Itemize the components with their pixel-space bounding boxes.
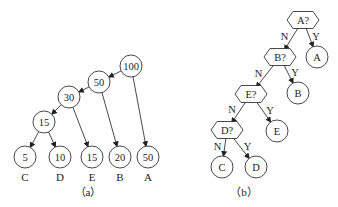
node-label: A bbox=[313, 52, 321, 63]
edge-label-y: Y bbox=[291, 67, 299, 78]
tree-node-10: 10 bbox=[49, 146, 71, 168]
tree-node-50: 50 bbox=[137, 146, 159, 168]
decision-edge-n bbox=[223, 138, 225, 156]
outcome-node-c: C bbox=[211, 156, 233, 178]
tree-edge bbox=[30, 132, 39, 148]
decision-node-d: D? bbox=[211, 122, 243, 139]
node-weight: 100 bbox=[123, 61, 139, 72]
tree-node-15: 15 bbox=[33, 111, 55, 133]
outcome-node-a: A bbox=[306, 46, 328, 68]
leaf-label: A bbox=[144, 171, 152, 183]
leaf-label: C bbox=[21, 171, 28, 183]
edge-label-y: Y bbox=[312, 31, 320, 42]
node-weight: 50 bbox=[143, 152, 154, 163]
node-weight: 30 bbox=[64, 92, 75, 103]
decision-node-e: E? bbox=[235, 86, 267, 103]
tree-edge bbox=[102, 93, 117, 147]
caption-b: （b） bbox=[230, 186, 258, 198]
huffman-diagram: 1005030155C10D15E20B50A （a） NYNYNYNYA?B?… bbox=[0, 0, 338, 207]
tree-node-100: 100 bbox=[120, 55, 142, 77]
node-weight: 10 bbox=[55, 152, 66, 163]
huffman-tree-a: 1005030155C10D15E20B50A bbox=[14, 55, 159, 183]
edge-label-y: Y bbox=[266, 105, 274, 116]
decision-node-a: A? bbox=[287, 12, 319, 29]
tree-edge bbox=[49, 132, 56, 147]
node-weight: 20 bbox=[115, 152, 126, 163]
edge-label-n: N bbox=[281, 31, 289, 42]
node-weight: 50 bbox=[94, 77, 105, 88]
tree-edge bbox=[79, 87, 89, 92]
node-label: B bbox=[294, 88, 301, 99]
tree-edge bbox=[133, 77, 146, 146]
outcome-node-d: D bbox=[245, 156, 267, 178]
edge-label-n: N bbox=[214, 141, 222, 152]
decision-node-b: B? bbox=[264, 49, 296, 66]
tree-node-50: 50 bbox=[88, 71, 110, 93]
leaf-label: E bbox=[89, 171, 96, 183]
node-label: D bbox=[252, 162, 260, 173]
tree-node-30: 30 bbox=[58, 86, 80, 108]
outcome-node-b: B bbox=[287, 82, 309, 104]
leaf-label: D bbox=[56, 171, 64, 183]
node-label: E? bbox=[245, 89, 256, 100]
tree-edge bbox=[109, 71, 121, 77]
leaf-label: B bbox=[116, 171, 123, 183]
tree-edge bbox=[73, 107, 88, 146]
node-weight: 15 bbox=[87, 152, 98, 163]
tree-edge bbox=[52, 105, 61, 114]
edge-label-y: Y bbox=[244, 141, 252, 152]
node-label: A? bbox=[297, 15, 310, 26]
decision-tree-b: NYNYNYNYA?B?E?D?ABECD bbox=[211, 12, 328, 179]
node-label: B? bbox=[274, 52, 286, 63]
tree-node-5: 5 bbox=[14, 146, 36, 168]
node-label: E bbox=[274, 126, 280, 137]
node-weight: 5 bbox=[22, 152, 27, 163]
node-weight: 15 bbox=[39, 117, 50, 128]
outcome-node-e: E bbox=[266, 120, 288, 142]
tree-node-20: 20 bbox=[109, 146, 131, 168]
edge-label-n: N bbox=[228, 104, 236, 115]
tree-node-15: 15 bbox=[81, 146, 103, 168]
edge-label-n: N bbox=[255, 68, 263, 79]
node-label: D? bbox=[221, 125, 234, 136]
caption-a: （a） bbox=[75, 186, 102, 198]
node-label: C bbox=[218, 162, 225, 173]
